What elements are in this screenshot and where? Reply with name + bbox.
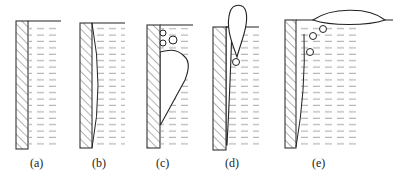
bubble: [160, 40, 166, 46]
panel-label: (e): [312, 156, 325, 170]
water-region: [29, 24, 61, 146]
bubble: [310, 33, 317, 40]
water-region: [297, 24, 357, 146]
panel-label: (d): [225, 156, 239, 170]
wall: [213, 27, 226, 150]
bubble: [307, 49, 314, 56]
panel-label: (b): [92, 156, 106, 170]
surface-lens: [313, 10, 385, 24]
bubble: [169, 36, 177, 44]
wall: [147, 25, 160, 148]
bubble: [233, 59, 240, 66]
bubble: [320, 26, 327, 33]
panel-e: (e): [285, 10, 393, 170]
panel-c: (c): [147, 25, 193, 170]
panel-d: (d): [213, 5, 259, 170]
panel-a: (a): [16, 21, 61, 170]
wall: [80, 23, 92, 148]
wall: [16, 21, 28, 149]
panel-b: (b): [80, 23, 125, 170]
wall-water-diagram: (a) (b) (c) (d): [0, 0, 394, 180]
panel-label: (c): [156, 156, 169, 170]
bubble: [160, 30, 166, 36]
wall: [285, 20, 296, 148]
panel-label: (a): [30, 156, 43, 170]
